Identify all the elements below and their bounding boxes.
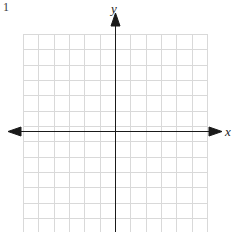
- x-axis-label: x: [224, 124, 231, 139]
- axes: [8, 13, 222, 232]
- x-axis-arrow-left: [8, 127, 21, 136]
- coordinate-grid-graph: y x: [0, 0, 239, 232]
- coordinate-plane-figure: 1: [0, 0, 239, 232]
- x-axis-arrow-right: [209, 127, 222, 136]
- y-axis-label: y: [109, 1, 117, 16]
